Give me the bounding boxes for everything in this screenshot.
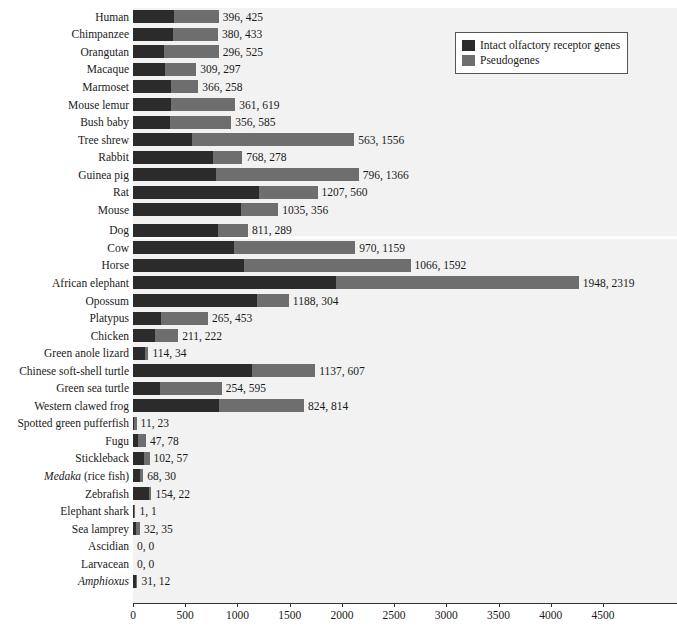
bar-value-label: 265, 453: [212, 312, 252, 324]
bar-segment-intact: [133, 241, 234, 254]
bar-value-label: 154, 22: [155, 488, 190, 500]
bar-segment-intact: [133, 80, 171, 93]
category-label: Mouse: [0, 204, 133, 216]
bar-segment-pseudogenes: [171, 98, 236, 111]
bar-row: Amphioxus31, 12: [0, 573, 677, 591]
bar-row: Mouse1035, 356: [0, 201, 677, 219]
bar-rows-container: Human396, 425Chimpanzee380, 433Orangutan…: [0, 8, 677, 590]
category-label: Green anole lizard: [0, 347, 133, 359]
stacked-bar: 356, 585: [133, 116, 677, 129]
bar-value-label: 361, 619: [239, 99, 279, 111]
x-axis-line: [133, 603, 677, 604]
bar-value-label: 356, 585: [235, 116, 275, 128]
bar-segment-intact: [133, 10, 174, 23]
x-axis-tick-label: 1000: [226, 609, 249, 621]
stacked-bar: 1137, 607: [133, 364, 677, 377]
stacked-bar: 811, 289: [133, 224, 677, 237]
bar-segment-intact: [133, 168, 216, 181]
bar-row: Fugu47, 78: [0, 432, 677, 450]
stacked-bar: 0, 0: [133, 557, 677, 570]
bar-row: Opossum1188, 304: [0, 292, 677, 310]
bar-segment-pseudogenes: [244, 259, 410, 272]
category-label: Mouse lemur: [0, 99, 133, 111]
bar-row: Chinese soft-shell turtle1137, 607: [0, 362, 677, 380]
stacked-bar: 366, 258: [133, 80, 677, 93]
bar-segment-intact: [133, 45, 164, 58]
bar-value-label: 309, 297: [200, 63, 240, 75]
bar-row: Spotted green pufferfish11, 23: [0, 415, 677, 433]
bar-segment-pseudogenes: [259, 186, 317, 199]
stacked-bar: 1188, 304: [133, 294, 677, 307]
bar-value-label: 31, 12: [141, 575, 170, 587]
bar-value-label: 970, 1159: [359, 242, 405, 254]
bar-value-label: 1, 1: [139, 505, 156, 517]
bar-value-label: 11, 23: [141, 417, 169, 429]
category-label: Marmoset: [0, 81, 133, 93]
bar-value-label: 1948, 2319: [583, 277, 635, 289]
bar-segment-pseudogenes: [219, 399, 304, 412]
bar-row: Green sea turtle254, 595: [0, 379, 677, 397]
bar-value-label: 380, 433: [222, 28, 262, 40]
bar-segment-pseudogenes: [145, 347, 149, 360]
stacked-bar: 396, 425: [133, 10, 677, 23]
category-label: Ascidian: [0, 540, 133, 552]
stacked-bar: 1066, 1592: [133, 259, 677, 272]
bar-segment-pseudogenes: [216, 168, 359, 181]
bar-value-label: 114, 34: [152, 347, 186, 359]
stacked-bar: 768, 278: [133, 151, 677, 164]
bar-segment-intact: [133, 151, 213, 164]
bar-value-label: 811, 289: [252, 224, 292, 236]
bar-row: Bush baby356, 585: [0, 113, 677, 131]
stacked-bar: 211, 222: [133, 329, 677, 342]
category-label: Opossum: [0, 295, 133, 307]
category-label: Zebrafish: [0, 488, 133, 500]
stacked-bar: 0, 0: [133, 540, 677, 553]
stacked-bar: 1, 1: [133, 505, 677, 518]
bar-value-label: 1066, 1592: [415, 259, 467, 271]
category-label: Green sea turtle: [0, 382, 133, 394]
bar-row: Chicken211, 222: [0, 327, 677, 345]
bar-row: Cow970, 1159: [0, 239, 677, 257]
legend-item-intact: Intact olfactory receptor genes: [462, 38, 620, 52]
stacked-bar: 1948, 2319: [133, 276, 677, 289]
legend: Intact olfactory receptor genesPseudogen…: [455, 32, 628, 74]
stacked-bar: 32, 35: [133, 522, 677, 535]
bar-segment-intact: [133, 133, 192, 146]
bar-segment-pseudogenes: [170, 116, 231, 129]
bar-row: Tree shrew563, 1556: [0, 131, 677, 149]
x-axis-tick: [499, 603, 500, 607]
category-label: Cow: [0, 242, 133, 254]
category-label: Rat: [0, 186, 133, 198]
x-axis-tick-label: 0: [130, 609, 136, 621]
x-axis-tick: [551, 603, 552, 607]
category-label: Guinea pig: [0, 169, 133, 181]
bar-value-label: 211, 222: [182, 330, 222, 342]
bar-value-label: 768, 278: [246, 151, 286, 163]
stacked-bar: 1035, 356: [133, 203, 677, 216]
x-axis-tick: [237, 603, 238, 607]
category-label: Larvacean: [0, 558, 133, 570]
bar-segment-pseudogenes: [164, 45, 219, 58]
bar-segment-intact: [133, 276, 336, 289]
bar-segment-intact: [133, 382, 160, 395]
bar-row: Dog811, 289: [0, 222, 677, 240]
x-axis-tick-label: 500: [177, 609, 194, 621]
x-axis-tick: [603, 603, 604, 607]
chart-figure: Human396, 425Chimpanzee380, 433Orangutan…: [0, 0, 677, 639]
bar-segment-intact: [133, 116, 170, 129]
category-label: Platypus: [0, 312, 133, 324]
bar-row: Sea lamprey32, 35: [0, 520, 677, 538]
legend-label: Intact olfactory receptor genes: [480, 39, 620, 51]
bar-row: Rabbit768, 278: [0, 148, 677, 166]
legend-label: Pseudogenes: [480, 54, 539, 66]
bar-segment-pseudogenes: [171, 80, 198, 93]
bar-row: African elephant1948, 2319: [0, 274, 677, 292]
category-label: Fugu: [0, 435, 133, 447]
bar-segment-pseudogenes: [134, 417, 136, 430]
x-axis-tick-label: 1500: [278, 609, 301, 621]
bar-value-label: 47, 78: [150, 435, 179, 447]
category-label: Stickleback: [0, 452, 133, 464]
bar-segment-pseudogenes: [165, 63, 196, 76]
bar-segment-pseudogenes: [160, 382, 222, 395]
bar-value-label: 366, 258: [202, 81, 242, 93]
